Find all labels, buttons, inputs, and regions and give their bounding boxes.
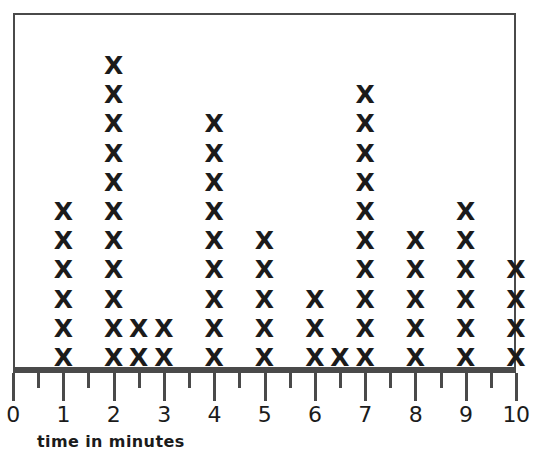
x-axis-major-tick <box>314 373 317 401</box>
x-axis-tick-label: 0 <box>0 402 33 427</box>
x-axis-minor-tick <box>389 373 392 388</box>
x-axis-minor-tick <box>138 373 141 388</box>
x-axis-tick-label: 3 <box>144 402 184 427</box>
x-axis-major-tick <box>62 373 65 401</box>
x-axis-tick-label: 8 <box>395 402 435 427</box>
x-axis-tick-label: 4 <box>194 402 234 427</box>
x-axis-minor-tick <box>87 373 90 388</box>
x-axis-major-tick <box>113 373 116 401</box>
x-axis-minor-tick <box>238 373 241 388</box>
plot-frame <box>13 13 516 369</box>
x-axis-tick-label: 1 <box>43 402 83 427</box>
x-axis-tick-label: 5 <box>245 402 285 427</box>
x-axis-minor-tick <box>188 373 191 388</box>
x-axis-tick-label: 7 <box>345 402 385 427</box>
x-axis-major-tick <box>163 373 166 401</box>
x-axis-minor-tick <box>37 373 40 388</box>
x-axis-tick-label: 2 <box>94 402 134 427</box>
x-axis-tick-label: 6 <box>295 402 335 427</box>
x-axis-major-tick <box>515 373 518 401</box>
x-axis-tick-label: 9 <box>446 402 486 427</box>
x-axis-minor-tick <box>440 373 443 388</box>
x-axis-major-tick <box>12 373 15 401</box>
x-axis-major-tick <box>264 373 267 401</box>
x-axis-major-tick <box>364 373 367 401</box>
x-axis-minor-tick <box>490 373 493 388</box>
x-axis-caption: time in minutes <box>37 432 185 451</box>
x-axis-major-tick <box>465 373 468 401</box>
x-axis: 012345678910 time in minutes <box>13 369 516 440</box>
x-axis-minor-tick <box>289 373 292 388</box>
x-axis-major-tick <box>213 373 216 401</box>
x-axis-major-tick <box>414 373 417 401</box>
x-axis-tick-label: 10 <box>496 402 534 427</box>
x-axis-minor-tick <box>339 373 342 388</box>
